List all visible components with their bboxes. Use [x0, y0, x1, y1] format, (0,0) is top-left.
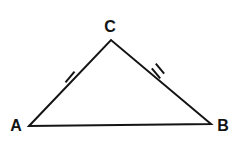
vertex-label-c: C	[104, 19, 116, 35]
tick-stroke-bc-2	[156, 64, 164, 74]
vertex-label-b: B	[217, 118, 229, 134]
triangle-diagram-svg	[0, 0, 237, 145]
vertex-label-a: A	[10, 118, 22, 134]
geometry-figure: A B C	[0, 0, 237, 145]
triangle-abc-outline	[29, 40, 211, 126]
